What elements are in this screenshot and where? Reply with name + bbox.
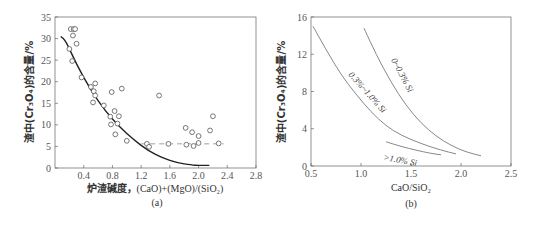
- data-point-marker: [211, 114, 216, 119]
- y-tick-label: 35: [41, 12, 51, 23]
- x-tick-label: 1.2: [135, 170, 148, 181]
- chart-a-y-ticks: 05101520253035: [41, 12, 58, 174]
- x-tick-label: 1.6: [164, 170, 177, 181]
- data-point-marker: [79, 75, 84, 80]
- chart-b-y-label: 渣中(Cr₃O₄)的含量/%: [275, 41, 287, 143]
- chart-a-x-label-cn: 炉渣碱度，: [87, 182, 137, 194]
- data-point-marker: [70, 59, 75, 64]
- x-tick-label: 2.0: [455, 168, 468, 179]
- data-point-marker: [109, 90, 114, 95]
- data-point-marker: [101, 103, 106, 108]
- y-tick-label: 20: [41, 76, 51, 87]
- chart-a: 05101520253035 0.40.81.21.62.02.42.8 渣中(…: [23, 12, 262, 210]
- x-tick-label: 0.8: [106, 170, 119, 181]
- chart-a-caption: (a): [151, 197, 162, 209]
- x-tick-label: 0.4: [77, 170, 90, 181]
- data-point-marker: [108, 114, 113, 119]
- data-point-marker: [216, 141, 221, 146]
- data-point-marker: [91, 100, 96, 105]
- y-tick-label: 15: [41, 98, 51, 109]
- data-point-marker: [67, 47, 72, 52]
- chart-a-frame: [55, 17, 256, 168]
- chart-a-y-label: 渣中(Cr₃O₄)的含量/%: [23, 41, 35, 143]
- chart-b-caption: (b): [405, 198, 417, 210]
- data-point-marker: [112, 109, 117, 114]
- x-tick-label: 2.5: [505, 168, 518, 179]
- curve-label-gt-1.0-si: >1.0% Si: [383, 152, 419, 168]
- data-point-marker: [88, 84, 93, 89]
- y-tick-label: 8: [302, 86, 307, 97]
- x-tick-label: 2.4: [221, 170, 234, 181]
- data-point-marker: [93, 81, 98, 86]
- x-tick-label: 1.0: [355, 168, 368, 179]
- chart-b-x-label: CaO/SiO₂: [391, 182, 431, 193]
- y-tick-label: 10: [41, 119, 51, 130]
- chart-b: 0481216 0.51.01.52.02.5 渣中(Cr₃O₄)的含量/% C…: [275, 12, 517, 211]
- data-point-marker: [116, 114, 121, 119]
- data-point-marker: [183, 125, 188, 130]
- data-point-marker: [147, 144, 152, 149]
- data-point-marker: [157, 93, 162, 98]
- figure: 05101520253035 0.40.81.21.62.02.42.8 渣中(…: [0, 0, 536, 225]
- x-tick-label: 0.5: [305, 168, 318, 179]
- data-point-marker: [184, 142, 189, 147]
- chart-a-series: [61, 36, 224, 165]
- chart-b-series: [313, 26, 481, 155]
- chart-a-points: [67, 27, 221, 150]
- data-point-marker: [113, 132, 118, 137]
- data-point-marker: [208, 128, 213, 133]
- data-point-marker: [166, 141, 171, 146]
- y-tick-label: 25: [41, 55, 51, 66]
- y-tick-label: 4: [302, 123, 307, 134]
- x-tick-label: 2.8: [250, 170, 263, 181]
- chart-b-y-ticks: 0481216: [297, 12, 314, 172]
- y-tick-label: 30: [41, 33, 51, 44]
- data-point-marker: [124, 138, 129, 143]
- data-point-marker: [71, 33, 76, 38]
- data-point-marker: [109, 122, 114, 127]
- data-point-marker: [190, 130, 195, 135]
- y-tick-label: 5: [46, 141, 51, 152]
- data-point-marker: [191, 144, 196, 149]
- y-tick-label: 0: [46, 163, 51, 174]
- data-point-marker: [93, 93, 98, 98]
- data-point-marker: [119, 86, 124, 91]
- data-point-marker: [196, 141, 201, 146]
- data-point-marker: [73, 27, 78, 32]
- curve-label-0-0.3-si: 0~0.3% Si: [389, 56, 416, 94]
- y-tick-label: 16: [297, 12, 307, 23]
- data-point-marker: [196, 134, 201, 139]
- data-point-marker: [115, 121, 120, 126]
- chart-a-x-label: 炉渣碱度，(CaO)+(MgO)/(SiO₂): [87, 182, 224, 195]
- y-tick-label: 12: [297, 49, 307, 60]
- data-point-marker: [74, 41, 79, 46]
- chart-a-x-ticks: 0.40.81.21.62.02.42.8: [77, 165, 262, 181]
- x-tick-label: 1.5: [405, 168, 418, 179]
- series-curve: [364, 28, 481, 156]
- x-tick-label: 2.0: [192, 170, 205, 181]
- chart-a-x-label-formula: (CaO)+(MgO)/(SiO₂): [137, 183, 224, 195]
